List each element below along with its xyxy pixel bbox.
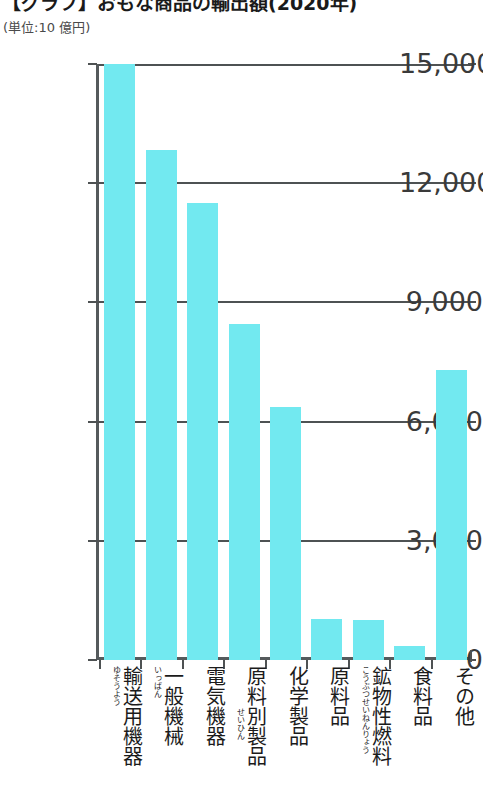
- x-axis-label-text: 化学製品: [286, 666, 307, 746]
- x-axis-label-text: 電気機器: [203, 666, 224, 746]
- x-axis-label-6: 鉱物性燃料こうぶつせいねんりょう: [349, 666, 390, 766]
- y-tick-9000: [88, 301, 97, 303]
- bar-3: [229, 324, 260, 660]
- x-axis-label-text: その他: [452, 666, 473, 726]
- x-axis-label-text: 鉱物性燃料: [369, 666, 390, 766]
- x-axis-labels-group: 輸送用機器ゆそうよう一般機械いっぱん電気機器原料別製品せいひん化学製品原料品鉱物…: [96, 666, 479, 785]
- y-tick-0: [88, 659, 97, 661]
- x-axis-label-text: 原料別製品: [244, 666, 265, 766]
- x-axis-label-0: 輸送用機器ゆそうよう: [100, 666, 141, 766]
- y-tick-15000: [88, 63, 97, 65]
- x-axis-label-4: 化学製品: [266, 666, 307, 746]
- bar-2: [187, 203, 218, 660]
- chart-title-clip: 【グラフ】おもな商品の輸出額(2020年): [0, 0, 483, 14]
- bar-0: [104, 64, 135, 660]
- y-tick-6000: [88, 421, 97, 423]
- y-tick-3000: [88, 540, 97, 542]
- bar-5: [311, 619, 342, 660]
- axis-right-cap: [470, 650, 472, 662]
- x-axis-label-2: 電気機器: [183, 666, 224, 746]
- bar-1: [146, 150, 177, 660]
- x-axis-label-1: 一般機械いっぱん: [141, 666, 182, 746]
- page-title: 【グラフ】おもな商品の輸出額(2020年): [2, 0, 357, 14]
- bar-4: [270, 407, 301, 660]
- x-axis-label-text: 食料品: [410, 666, 431, 726]
- bar-6: [353, 620, 384, 660]
- x-axis-label-text: 輸送用機器: [120, 666, 141, 766]
- x-axis-label-text: 一般機械: [161, 666, 182, 746]
- bar-7: [394, 646, 425, 660]
- y-tick-12000: [88, 182, 97, 184]
- x-axis-label-text: 原料品: [327, 666, 348, 726]
- x-axis-label-8: その他: [432, 666, 473, 726]
- bars-group: [99, 64, 472, 660]
- chart-page: 【グラフ】おもな商品の輸出額(2020年) (単位:10 億円) 15,0001…: [0, 0, 483, 785]
- x-axis-label-3: 原料別製品せいひん: [224, 666, 265, 766]
- bar-8: [436, 370, 467, 660]
- x-axis-label-7: 食料品: [390, 666, 431, 726]
- x-axis-label-5: 原料品: [307, 666, 348, 726]
- chart-unit-subtitle: (単位:10 億円): [3, 17, 90, 36]
